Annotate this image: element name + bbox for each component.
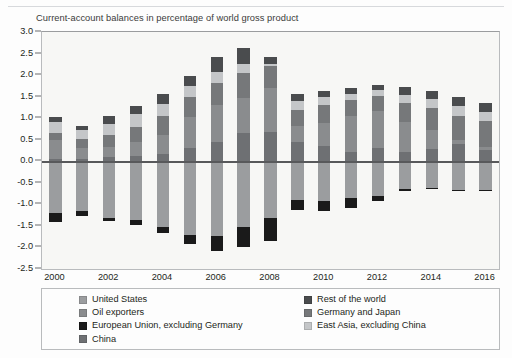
bar-segment (237, 73, 249, 98)
bar-column[interactable] (345, 32, 357, 269)
bar-segment (399, 189, 411, 191)
legend-item-label: Oil exporters (92, 308, 144, 317)
legend-item[interactable]: Germany and Japan (304, 306, 426, 319)
bar-segment (479, 161, 491, 189)
bar-segment (426, 188, 438, 189)
legend-color-swatch-icon (79, 296, 87, 304)
bar-segment (237, 133, 249, 161)
bar-segment (479, 103, 491, 112)
bar-segment (372, 148, 384, 161)
bar-column[interactable] (318, 32, 330, 269)
bar-column[interactable] (237, 32, 249, 269)
legend-color-swatch-icon (304, 296, 312, 304)
bar-segment (103, 135, 115, 147)
legend-item[interactable]: Rest of the world (304, 293, 426, 306)
bar-segment (211, 105, 223, 142)
bar-column[interactable] (399, 32, 411, 269)
bar-segment (264, 132, 276, 162)
bar-segment (49, 133, 61, 140)
legend-item[interactable]: East Asia, excluding China (304, 319, 426, 332)
bar-segment (237, 48, 249, 64)
legend-item[interactable]: Oil exporters (79, 306, 243, 319)
plot-inner (42, 32, 499, 269)
bar-segment (264, 88, 276, 132)
bar-segment (291, 142, 303, 161)
legend-item-label: East Asia, excluding China (317, 321, 426, 330)
bar-segment (264, 57, 276, 65)
x-axis-tick-label: 2014 (421, 272, 441, 282)
bar-column[interactable] (452, 32, 464, 269)
bar-segment (184, 86, 196, 97)
bar-segment (103, 161, 115, 217)
bar-segment (49, 213, 61, 222)
bar-segment (399, 122, 411, 152)
bar-column[interactable] (264, 32, 276, 269)
x-axis-tick-label: 2000 (44, 272, 64, 282)
bar-column[interactable] (49, 32, 61, 269)
legend-item-label: Germany and Japan (317, 308, 400, 317)
bar-segment (479, 150, 491, 161)
legend-item-label: Rest of the world (317, 295, 386, 304)
bar-segment (130, 114, 142, 127)
y-axis-tick-label: -2.5 (17, 263, 33, 273)
bar-segment (345, 198, 357, 207)
bar-segment (318, 161, 330, 201)
bar-segment (211, 72, 223, 83)
bar-segment (264, 218, 276, 241)
bar-segment (399, 95, 411, 103)
bar-segment (345, 94, 357, 100)
bar-segment (237, 98, 249, 132)
bar-segment (372, 85, 384, 89)
bar-segment (452, 190, 464, 191)
bar-segment (426, 99, 438, 108)
bar-segment (157, 161, 169, 226)
bar-segment (184, 76, 196, 86)
y-axis-tick-label: -2.0 (17, 241, 33, 251)
legend-item-label: China (92, 335, 116, 344)
bar-segment (103, 124, 115, 135)
bar-segment (372, 161, 384, 195)
bar-segment (211, 142, 223, 161)
bar-segment (318, 123, 330, 145)
bar-segment (452, 140, 464, 144)
bar-segment (76, 161, 88, 211)
bar-segment (184, 235, 196, 244)
y-axis-tick-label: -0.5 (17, 177, 33, 187)
bar-segment (237, 161, 249, 226)
bar-segment (291, 161, 303, 200)
zero-baseline (42, 161, 499, 162)
bar-column[interactable] (479, 32, 491, 269)
bar-segment (157, 227, 169, 233)
bar-column[interactable] (184, 32, 196, 269)
bar-segment (479, 112, 491, 121)
bar-segment (345, 100, 357, 116)
y-axis-tick-label: 1.0 (20, 112, 33, 122)
x-axis-tick-label: 2006 (206, 272, 226, 282)
bar-segment (76, 211, 88, 215)
legend-color-swatch-icon (304, 309, 312, 317)
bar-segment (291, 101, 303, 110)
bar-segment (291, 200, 303, 210)
bar-column[interactable] (426, 32, 438, 269)
legend-item[interactable]: European Union, excluding Germany (79, 319, 243, 332)
legend-item[interactable]: China (79, 333, 243, 346)
bar-segment (399, 161, 411, 189)
bar-segment (130, 127, 142, 143)
legend-item[interactable]: United States (79, 293, 243, 306)
bar-column[interactable] (130, 32, 142, 269)
bar-segment (184, 117, 196, 148)
bar-column[interactable] (211, 32, 223, 269)
bar-column[interactable] (372, 32, 384, 269)
plot-area (41, 31, 500, 270)
bar-column[interactable] (157, 32, 169, 269)
x-axis-tick-label: 2008 (259, 272, 279, 282)
bar-segment (157, 104, 169, 117)
y-axis-tick-label: -1.0 (17, 198, 33, 208)
bar-column[interactable] (76, 32, 88, 269)
bar-segment (452, 116, 464, 140)
bar-segment (157, 135, 169, 154)
y-axis-tick-label: -1.5 (17, 220, 33, 230)
bar-column[interactable] (103, 32, 115, 269)
bar-column[interactable] (291, 32, 303, 269)
legend-color-swatch-icon (79, 335, 87, 343)
